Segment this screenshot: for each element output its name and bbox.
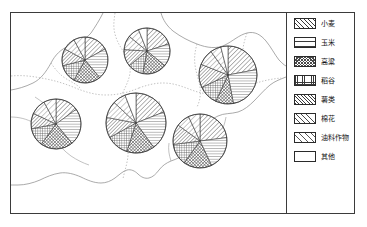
legend-item-tuber[interactable]: 薯类	[288, 90, 354, 109]
pie-northwest	[62, 37, 108, 83]
legend-item-wheat[interactable]: 小麦	[288, 14, 354, 33]
legend-item-other[interactable]: 其他	[288, 147, 354, 166]
legend-label-oil: 油料作物	[321, 133, 349, 142]
legend-swatch-cotton	[294, 113, 316, 124]
map-panel	[11, 13, 286, 213]
legend-swatch-corn	[294, 37, 316, 48]
pie-central	[106, 93, 166, 153]
legend: 小麦 玉米 高粱 稻谷 薯类 棉花 油料作物 其他	[288, 14, 354, 212]
pie-north	[124, 28, 170, 74]
legend-swatch-rice	[294, 75, 316, 86]
pie-west	[31, 99, 81, 149]
thematic-map-figure: 小麦 玉米 高粱 稻谷 薯类 棉花 油料作物 其他	[0, 0, 367, 227]
legend-label-other: 其他	[321, 152, 335, 161]
legend-swatch-sorghum	[294, 56, 316, 67]
legend-label-corn: 玉米	[321, 38, 335, 47]
pie-northeast	[199, 46, 257, 104]
legend-item-sorghum[interactable]: 高粱	[288, 52, 354, 71]
legend-label-sorghum: 高粱	[321, 57, 335, 66]
panel-divider	[286, 12, 287, 214]
legend-item-rice[interactable]: 稻谷	[288, 71, 354, 90]
legend-swatch-wheat	[294, 18, 316, 29]
pie-southeast	[173, 114, 227, 168]
legend-item-oil[interactable]: 油料作物	[288, 128, 354, 147]
legend-swatch-tuber	[294, 94, 316, 105]
legend-label-cotton: 棉花	[321, 114, 335, 123]
map-outline-svg	[11, 13, 286, 213]
pie-slice-wheat	[200, 114, 227, 141]
legend-item-cotton[interactable]: 棉花	[288, 109, 354, 128]
legend-label-rice: 稻谷	[321, 76, 335, 85]
legend-label-tuber: 薯类	[321, 95, 335, 104]
legend-item-corn[interactable]: 玉米	[288, 33, 354, 52]
legend-label-wheat: 小麦	[321, 19, 335, 28]
pie-charts-layer	[31, 28, 257, 168]
legend-swatch-other	[294, 151, 316, 162]
legend-swatch-oil	[294, 132, 316, 143]
